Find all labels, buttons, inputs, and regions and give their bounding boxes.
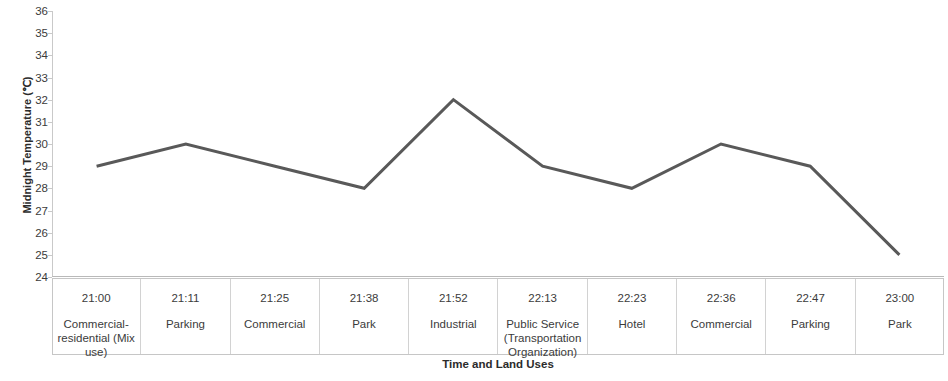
y-axis-tick-label: 30 [22,138,48,150]
category-time-label: 21:11 [171,292,199,305]
category-land-use-label: Public Service (Transportation Organizat… [500,317,584,359]
category-land-use-label: Industrial [430,317,477,331]
category-time-label: 22:23 [618,292,647,305]
category-land-use-label: Park [352,317,376,331]
category-time-label: 21:52 [439,292,468,305]
y-axis-tick-label: 25 [22,249,48,261]
category-cell: 21:52Industrial [409,279,498,354]
category-time-label: 23:00 [885,292,914,305]
series-line [52,11,944,277]
category-cell: 21:38Park [320,279,409,354]
y-axis-tickmark [48,33,52,34]
category-land-use-label: Parking [791,317,830,331]
category-land-use-label: Commercial [244,317,305,331]
category-cell: 22:23Hotel [588,279,677,354]
y-axis-tick-label: 34 [22,49,48,61]
y-axis-tick-label: 31 [22,116,48,128]
y-axis-tick-label: 36 [22,5,48,17]
y-axis-tickmark [48,11,52,12]
y-axis-tick-label: 24 [22,271,48,283]
category-cell: 23:00Park [856,279,944,354]
y-axis-tick-labels: 36353433323130292827262524 [22,0,48,381]
category-time-label: 21:38 [350,292,379,305]
y-axis-tick-label: 28 [22,182,48,194]
category-time-label: 21:00 [82,292,111,305]
category-time-label: 22:47 [796,292,825,305]
category-time-label: 21:25 [260,292,289,305]
y-axis-tickmark [48,233,52,234]
category-cell: 22:13Public Service (Transportation Orga… [498,279,587,354]
category-cell: 22:47Parking [766,279,855,354]
category-land-use-label: Commercial [691,317,752,331]
y-axis-tick-label: 27 [22,205,48,217]
y-axis-tickmark [48,211,52,212]
y-axis-tick-label: 26 [22,227,48,239]
y-axis-tick-label: 33 [22,72,48,84]
category-land-use-label: Commercial-residential (Mix use) [54,317,138,359]
category-cell: 21:11Parking [141,279,230,354]
category-table: 21:00Commercial-residential (Mix use)21:… [52,278,944,355]
y-axis-tick-label: 32 [22,94,48,106]
y-axis-tickmark [48,78,52,79]
category-cell: 21:00Commercial-residential (Mix use) [52,279,141,354]
line-chart: Midnight Temperature (℃) 363534333231302… [0,0,948,381]
category-land-use-label: Park [888,317,912,331]
y-axis-tickmark [48,188,52,189]
x-axis-title: Time and Land Uses [52,357,944,371]
category-time-label: 22:36 [707,292,736,305]
category-land-use-label: Hotel [619,317,646,331]
category-cell: 22:36Commercial [677,279,766,354]
y-axis-tickmark [48,166,52,167]
y-axis-tickmark [48,122,52,123]
y-axis-tickmark [48,55,52,56]
y-axis-tickmark [48,255,52,256]
plot-area [52,11,944,277]
y-axis-tickmark [48,144,52,145]
y-axis-tick-label: 29 [22,160,48,172]
category-time-label: 22:13 [528,292,557,305]
y-axis-tick-label: 35 [22,27,48,39]
category-land-use-label: Parking [166,317,205,331]
category-cell: 21:25Commercial [231,279,320,354]
y-axis-tickmark [48,100,52,101]
